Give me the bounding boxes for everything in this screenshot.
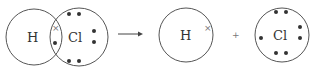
hcl-dissociation-diagram: H Cl × H × + Cl [0,0,315,71]
shared-cross-electron: × [52,23,60,33]
product-h-cross-electron: × [204,23,212,33]
plus-sign: + [232,30,240,40]
reactant-h-label: H [27,30,38,45]
product-h-label: H [180,28,191,43]
reactant-cl-label: Cl [68,30,82,45]
arrow-icon [118,32,143,37]
product-cl-label: Cl [273,28,287,43]
